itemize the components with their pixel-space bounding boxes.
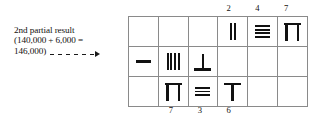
cell-content <box>129 47 158 76</box>
table-row <box>129 77 308 107</box>
partial-result-annotation: 2nd partial result (140,000 + 6,000 = 14… <box>14 25 126 56</box>
numeral-pi-symbol <box>284 23 301 41</box>
grid-cell-r3c1 <box>129 77 159 107</box>
tee-shape <box>224 83 241 101</box>
grid-body <box>129 17 308 107</box>
pi-shape <box>284 23 301 41</box>
dash-shape <box>136 60 151 62</box>
grid-cell-r3c2 <box>158 77 188 107</box>
numeral-inverted-tee-symbol <box>194 53 211 71</box>
numeral-grid <box>128 16 301 103</box>
cell-content <box>248 47 277 76</box>
numeral-single-dash <box>136 60 151 62</box>
grid-cell-r2c6 <box>277 47 307 77</box>
grid-cell-r3c4 <box>218 77 248 107</box>
dashed-arrow-icon <box>50 51 100 57</box>
grid-cell-r1c1 <box>129 17 159 47</box>
cell-content <box>159 77 188 106</box>
horizontal-bars-group <box>195 87 210 96</box>
grid-cell-r1c6 <box>277 17 307 47</box>
table-row <box>129 47 308 77</box>
numeral-two-vertical-strokes <box>230 23 236 40</box>
cell-content <box>278 17 307 46</box>
dashed-line <box>50 54 96 55</box>
grid-cell-r3c6 <box>277 77 307 107</box>
numeral-multiplication-figure: 2nd partial result (140,000 + 6,000 = 14… <box>0 0 315 121</box>
numeral-three-horizontal-bars <box>195 87 210 96</box>
top-column-label-4: 2 <box>214 3 243 13</box>
cell-content <box>218 77 247 106</box>
cell-content <box>278 47 307 76</box>
vertical-strokes-group <box>167 53 180 70</box>
cell-content <box>189 77 218 106</box>
grid-cell-r2c2 <box>158 47 188 77</box>
horizontal-bars-group <box>255 25 270 38</box>
inverted-tee-shape <box>194 53 211 71</box>
vertical-strokes-group <box>230 23 236 40</box>
grid-cell-r1c3 <box>188 17 218 47</box>
numeral-four-horizontal-bars <box>255 25 270 38</box>
cell-content <box>129 17 158 46</box>
grid-table <box>128 16 308 107</box>
cell-content <box>189 47 218 76</box>
numeral-pi-symbol <box>165 83 182 101</box>
grid-cell-r2c5 <box>248 47 278 77</box>
grid-cell-r1c2 <box>158 17 188 47</box>
cell-content <box>248 17 277 46</box>
table-row <box>129 17 308 47</box>
grid-cell-r1c5 <box>248 17 278 47</box>
annotation-line-2: (140,000 + 6,000 = <box>14 35 126 45</box>
top-column-label-6: 7 <box>272 3 301 13</box>
grid-cell-r3c3 <box>188 77 218 107</box>
cell-content <box>129 77 158 106</box>
cell-content <box>159 17 188 46</box>
pi-shape <box>165 83 182 101</box>
numeral-four-vertical-strokes <box>167 53 180 70</box>
cell-content <box>248 77 277 106</box>
grid-cell-r3c5 <box>248 77 278 107</box>
annotation-line-3-row: 146,000) <box>14 46 126 56</box>
grid-cell-r2c1 <box>129 47 159 77</box>
grid-cell-r2c3 <box>188 47 218 77</box>
grid-cell-r1c4 <box>218 17 248 47</box>
grid-cell-r2c4 <box>218 47 248 77</box>
numeral-tee-symbol <box>224 83 241 101</box>
top-column-label-5: 4 <box>243 3 272 13</box>
cell-content <box>189 17 218 46</box>
arrowhead <box>95 51 100 57</box>
cell-content <box>218 17 247 46</box>
annotation-line-3: 146,000) <box>14 46 46 56</box>
cell-content <box>278 77 307 106</box>
annotation-line-1: 2nd partial result <box>14 25 126 35</box>
cell-content <box>159 47 188 76</box>
cell-content <box>218 47 247 76</box>
